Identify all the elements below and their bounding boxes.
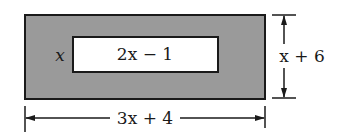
diagram-canvas: 2x − 1 x x + 6 3x + 4: [0, 0, 345, 139]
outer-width-label: 3x + 4: [117, 108, 173, 128]
inner-height-label: x: [55, 45, 65, 65]
inner-width-label: 2x − 1: [117, 44, 173, 64]
outer-height-label: x + 6: [279, 46, 324, 66]
